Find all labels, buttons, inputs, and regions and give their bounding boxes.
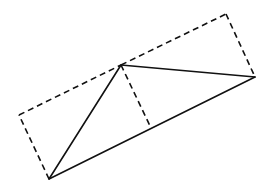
triangle <box>49 65 255 179</box>
geometry-diagram <box>0 0 269 182</box>
triangle-side-ab <box>49 77 255 179</box>
altitude-line-cd <box>121 65 151 128</box>
dashed-edge-eb <box>226 14 255 77</box>
dashed-rectangle <box>19 14 255 179</box>
dashed-edge-af <box>19 115 49 179</box>
triangle-side-cb <box>121 65 255 77</box>
dashed-edge-ce <box>121 14 226 65</box>
